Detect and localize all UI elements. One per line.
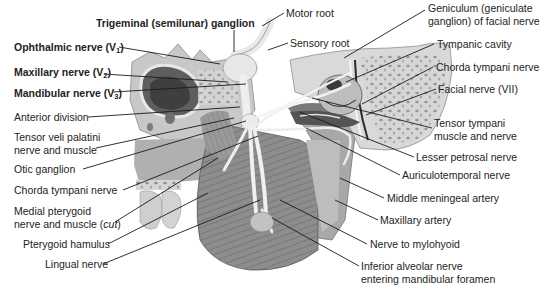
label-medial-pterygoid: Medial pterygoid nerve and muscle (cut) [14,205,121,230]
label-tympanic-cavity: Tympanic cavity [437,38,512,51]
label-tensor-tympani: Tensor tympani muscle and nerve [434,117,517,142]
label-geniculum: Geniculum (geniculate ganglion) of facia… [428,2,540,27]
label-motor-root: Motor root [286,7,334,20]
label-maxillary-artery: Maxillary artery [380,214,451,227]
label-inferior-alveolar-nerve: Inferior alveolar nerve entering mandibu… [361,260,495,285]
label-maxillary-nerve: Maxillary nerve (V2) [14,66,111,83]
label-line-1: Medial pterygoid [14,205,121,218]
label-anterior-division: Anterior division [14,111,89,124]
label-lesser-petrosal: Lesser petrosal nerve [416,151,517,164]
label-mandibular-nerve: Mandibular nerve (V3) [14,87,122,104]
label-facial-nerve: Facial nerve (VII) [438,83,518,96]
label-auriculotemporal: Auriculotemporal nerve [402,169,510,182]
label-close: ) [120,41,124,53]
label-chorda-tympani-right: Chorda tympani nerve [436,61,539,74]
label-text: nerve and muscle ( [14,218,103,230]
label-middle-meningeal-artery: Middle meningeal artery [387,192,499,205]
label-text: Mandibular nerve (V [14,87,114,99]
label-trigeminal-ganglion: Trigeminal (semilunar) ganglion [96,17,255,30]
label-otic-ganglion: Otic ganglion [14,163,75,176]
label-text: Ophthalmic nerve (V [14,41,116,53]
label-close: ) [117,218,121,230]
anatomy-figure: Trigeminal (semilunar) ganglion Ophthalm… [0,0,543,294]
label-nerve-to-mylohyoid: Nerve to mylohyoid [370,238,460,251]
label-close: ) [107,66,111,78]
label-pterygoid-hamulus: Pterygoid hamulus [23,238,110,251]
label-line-2: nerve and muscle (cut) [14,218,121,231]
label-text: Maxillary nerve (V [14,66,103,78]
label-close: ) [119,87,123,99]
label-lingual-nerve: Lingual nerve [45,258,108,271]
label-ophthalmic-nerve: Ophthalmic nerve (V1) [14,41,124,58]
label-sensory-root: Sensory root [290,37,350,50]
label-tensor-veli-palatini: Tensor veli palatini nerve and muscle [14,131,100,156]
label-chorda-tympani-left: Chorda tympani nerve [14,184,117,197]
label-italic: cut [103,218,117,230]
